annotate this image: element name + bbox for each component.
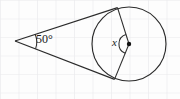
- tangent-line-upper: [15, 8, 118, 41]
- central-angle-label: x: [112, 37, 117, 48]
- circle-center-dot: [127, 42, 131, 46]
- geometry-figure: 50° x: [0, 0, 180, 99]
- tangent-line-lower: [15, 41, 115, 79]
- central-angle-arc: [119, 35, 126, 54]
- radius-upper: [118, 8, 130, 44]
- exterior-angle-label: 50°: [36, 33, 53, 45]
- diagram-canvas: [0, 0, 180, 99]
- radius-lower: [115, 44, 130, 79]
